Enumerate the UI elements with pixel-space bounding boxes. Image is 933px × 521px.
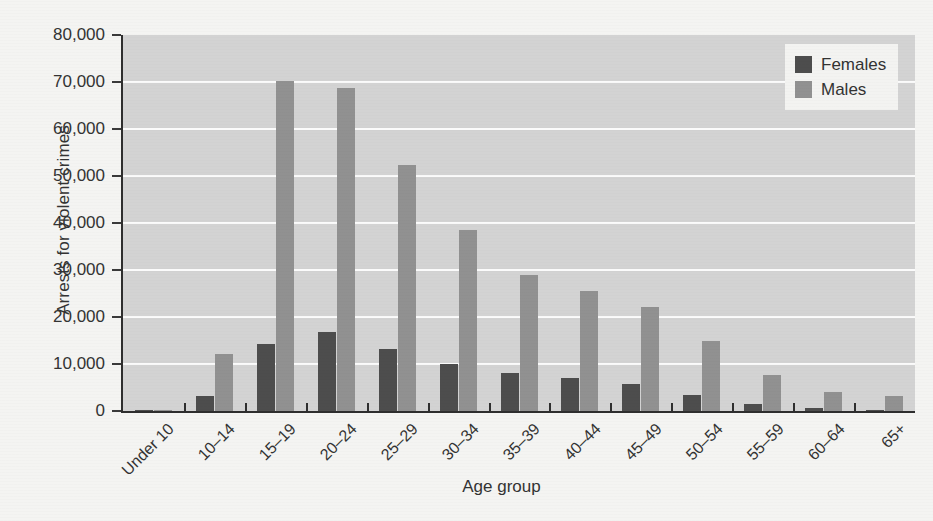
y-axis-tick-mark (112, 81, 121, 83)
bar-females (805, 408, 823, 411)
x-axis-tick-mark (306, 403, 308, 411)
bar-group (135, 35, 172, 411)
y-axis-tick-mark (112, 175, 121, 177)
y-axis-tick-mark (112, 410, 121, 412)
x-axis-tick-mark (793, 403, 795, 411)
x-axis-tick-mark (428, 403, 430, 411)
bar-group (501, 35, 538, 411)
x-axis-tick-mark (184, 403, 186, 411)
x-axis-tick-label: 40–44 (560, 420, 604, 464)
bar-females (440, 364, 458, 411)
x-axis-tick-label: Under 10 (119, 420, 178, 479)
x-axis-tick-label: 25–29 (378, 420, 422, 464)
bar-group (379, 35, 416, 411)
bar-females (135, 410, 153, 411)
bar-males (520, 275, 538, 411)
bar-females (501, 373, 519, 411)
bar-males (459, 230, 477, 411)
bar-males (885, 396, 903, 411)
x-axis-tick-mark (671, 403, 673, 411)
x-axis-tick-label: 60–64 (804, 420, 848, 464)
y-axis-tick-label: 50,000 (17, 166, 105, 186)
bar-males (580, 291, 598, 411)
bar-males (641, 307, 659, 411)
bar-males (276, 81, 294, 411)
chart-legend: FemalesMales (785, 44, 898, 110)
bar-group (196, 35, 233, 411)
legend-swatch-males (795, 81, 812, 98)
y-axis-tick-label: 30,000 (17, 260, 105, 280)
x-axis-tick-label: 35–39 (500, 420, 544, 464)
bar-males (702, 341, 720, 411)
legend-item: Males (795, 77, 886, 102)
x-axis-tick-mark (732, 403, 734, 411)
bar-group (257, 35, 294, 411)
bar-females (622, 384, 640, 411)
x-axis-tick-mark (367, 403, 369, 411)
x-axis-tick-label: 20–24 (317, 420, 361, 464)
x-axis-tick-label: 15–19 (256, 420, 300, 464)
x-axis-tick-mark (610, 403, 612, 411)
bar-males (398, 165, 416, 411)
x-axis-title-text: Age group (462, 477, 540, 496)
x-axis-title: Age group (0, 477, 933, 497)
y-axis-tick-label: 70,000 (17, 72, 105, 92)
bar-males (215, 354, 233, 411)
bar-males (824, 392, 842, 411)
y-axis-tick-label: 60,000 (17, 119, 105, 139)
y-axis-tick-label: 10,000 (17, 354, 105, 374)
bar-females (866, 410, 884, 411)
bar-group (622, 35, 659, 411)
y-axis-tick-label: 20,000 (17, 307, 105, 327)
x-axis-tick-label: 50–54 (682, 420, 726, 464)
y-axis-tick-mark (112, 128, 121, 130)
x-axis-tick-mark (549, 403, 551, 411)
bar-females (318, 332, 336, 411)
bar-females (379, 349, 397, 411)
y-axis-tick-mark (112, 363, 121, 365)
legend-label: Males (821, 80, 866, 100)
bar-group (744, 35, 781, 411)
legend-label: Females (821, 55, 886, 75)
legend-item: Females (795, 52, 886, 77)
y-axis-tick-label: 0 (17, 401, 105, 421)
bar-males (763, 375, 781, 411)
x-axis-tick-label: 10–14 (195, 420, 239, 464)
bar-females (561, 378, 579, 411)
y-axis-tick-mark (112, 269, 121, 271)
x-axis-tick-label: 45–49 (621, 420, 665, 464)
x-axis-tick-mark (489, 403, 491, 411)
legend-swatch-females (795, 56, 812, 73)
y-axis-tick-label: 80,000 (17, 25, 105, 45)
y-axis-tick-mark (112, 316, 121, 318)
x-axis-tick-label: 65+ (877, 420, 909, 452)
bar-males (154, 410, 172, 411)
bar-females (744, 404, 762, 411)
bar-females (683, 395, 701, 411)
bar-females (196, 396, 214, 412)
bar-group (440, 35, 477, 411)
bar-females (257, 344, 275, 411)
bar-group (683, 35, 720, 411)
bar-group (561, 35, 598, 411)
bar-group (318, 35, 355, 411)
x-axis-tick-mark (245, 403, 247, 411)
x-axis-tick-label: 30–34 (439, 420, 483, 464)
bar-males (337, 88, 355, 411)
y-axis-tick-labels: 010,00020,00030,00040,00050,00060,00070,… (15, 0, 105, 521)
y-axis-tick-label: 40,000 (17, 213, 105, 233)
bar-chart-figure: Arrests for violent crimes 010,00020,000… (0, 0, 933, 521)
x-axis-tick-label: 55–59 (743, 420, 787, 464)
y-axis-tick-mark (112, 222, 121, 224)
y-axis-tick-mark (112, 34, 121, 36)
x-axis-tick-mark (854, 403, 856, 411)
